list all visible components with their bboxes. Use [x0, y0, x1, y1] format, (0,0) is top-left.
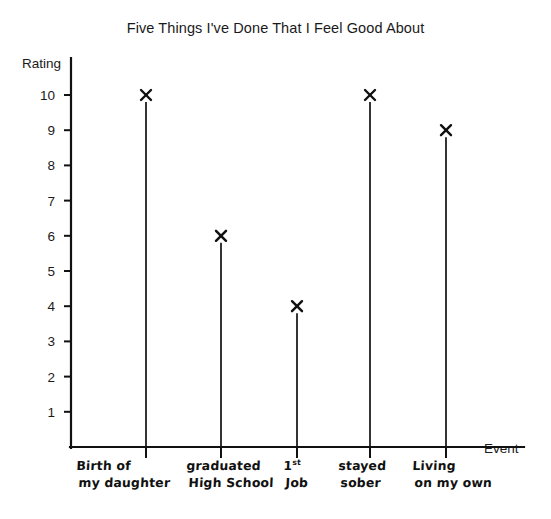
y-tick-label: 8 — [29, 158, 55, 173]
x-category-label: 1stJob — [282, 457, 309, 491]
x-category-label: Birth ofmy daughter — [75, 457, 171, 491]
x-category-label-line1: 1st — [283, 457, 309, 474]
y-tick-label: 2 — [29, 369, 55, 384]
x-category-label: stayedsober — [337, 457, 387, 491]
x-category-label-line1: stayed — [338, 457, 387, 474]
plot-area — [0, 0, 551, 519]
y-tick-label: 7 — [29, 193, 55, 208]
x-category-label: graduatedHigh School — [185, 457, 275, 491]
y-tick-label: 6 — [29, 228, 55, 243]
chart-container: Five Things I've Done That I Feel Good A… — [0, 0, 551, 519]
y-tick-label: 3 — [29, 334, 55, 349]
data-point-marker — [216, 231, 226, 241]
data-markers — [141, 90, 451, 311]
x-category-label-line1: Birth of — [76, 457, 172, 474]
y-tick-label: 5 — [29, 264, 55, 279]
x-category-label: Livingon my own — [411, 457, 493, 491]
x-category-label-line1: graduated — [186, 457, 275, 474]
x-category-label-line2: sober — [337, 474, 386, 491]
data-point-marker — [441, 125, 451, 135]
data-point-marker — [292, 301, 302, 311]
y-tick-label: 9 — [29, 123, 55, 138]
x-category-label-line2: on my own — [411, 474, 492, 491]
y-tick-label: 4 — [29, 299, 55, 314]
x-category-label-line2: High School — [185, 474, 274, 491]
x-category-label-line1: Living — [412, 457, 493, 474]
y-tick-label: 1 — [29, 404, 55, 419]
x-category-label-line2: Job — [282, 474, 308, 491]
data-point-marker — [141, 90, 151, 100]
y-tick-label: 10 — [29, 88, 55, 103]
x-category-label-line2: my daughter — [75, 474, 171, 491]
data-stems — [146, 102, 446, 446]
data-point-marker — [365, 90, 375, 100]
